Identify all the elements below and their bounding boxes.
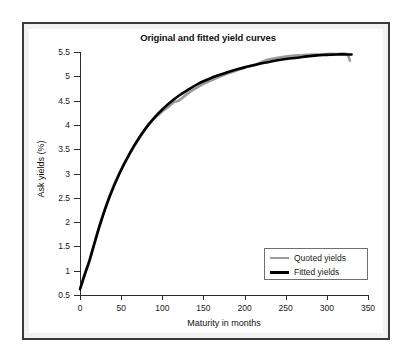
curve-plot-area (24, 24, 392, 342)
legend-item-quoted-yields: Quoted yields (270, 251, 346, 265)
legend-label-fitted-yields: Fitted yields (294, 267, 339, 277)
legend-line-swatch-fitted-icon (270, 271, 289, 274)
figure-frame: Original and fitted yield curves 0.511.5… (22, 22, 390, 340)
legend-label-quoted-yields: Quoted yields (294, 253, 346, 263)
yield-curve-chart: Original and fitted yield curves 0.511.5… (24, 24, 392, 342)
legend-line-swatch-quoted-icon (270, 257, 289, 259)
chart-legend: Quoted yields Fitted yields (264, 248, 368, 280)
y-axis-label: Ask yields (%) (36, 99, 46, 239)
legend-item-fitted-yields: Fitted yields (270, 265, 339, 279)
x-axis-label: Maturity in months (80, 318, 368, 328)
